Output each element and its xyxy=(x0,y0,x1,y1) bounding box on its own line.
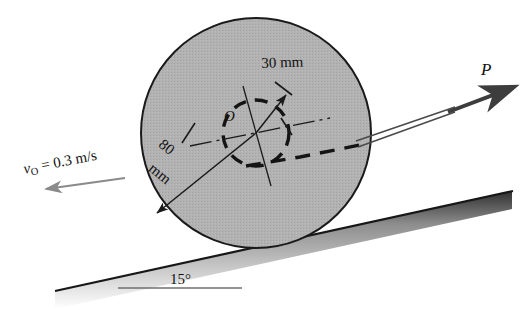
incline-angle-label: 15° xyxy=(170,271,191,288)
center-point-label: O xyxy=(224,108,235,125)
force-p-label: P xyxy=(481,60,491,80)
mechanics-figure: vO = 0.3 m/s 30 mm 80 mm O P 15° xyxy=(0,0,528,315)
hub-radius-label: 30 mm xyxy=(261,54,304,72)
force-p-arrow xyxy=(448,87,514,112)
velocity-arrow xyxy=(46,178,125,189)
